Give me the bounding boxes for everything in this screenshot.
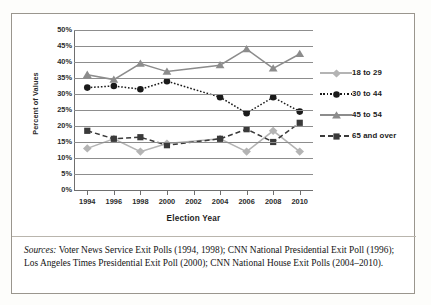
y-tick-50%: 50% [57,26,72,34]
data-point [83,144,92,152]
x-tick-1996: 1996 [99,197,129,206]
x-tick-2008: 2008 [258,197,288,206]
gridline [74,174,313,175]
data-point [332,69,341,77]
legend-marker-circle [331,89,342,100]
series-line [87,49,299,79]
legend-label: 65 and over [352,131,396,140]
legend-label: 30 to 44 [352,89,382,98]
chart-legend: 18 to 2930 to 4445 to 5465 and over [320,62,414,146]
x-tick [300,190,301,195]
y-tick-35%: 35% [57,74,72,82]
legend-item-30-to-44[interactable]: 30 to 44 [320,83,414,104]
line-chart: Percent of Values 0%5%10%15%20%25%30%35%… [12,14,416,228]
plot-area [74,30,313,190]
x-axis-title: Election Year [74,214,313,223]
y-tick-20%: 20% [57,122,72,130]
legend-key [320,130,352,142]
x-tick [194,190,195,195]
gridline [74,94,313,95]
gridline [74,110,313,111]
y-tick-25%: 25% [57,106,72,114]
x-tick-2006: 2006 [232,197,262,206]
x-tick-2004: 2004 [205,197,235,206]
x-tick [140,190,141,195]
x-tick-2010: 2010 [285,197,315,206]
data-point [84,128,90,134]
data-point [164,142,170,148]
legend-item-18-to-29[interactable]: 18 to 29 [320,62,414,83]
data-point [84,84,91,91]
y-axis-title: Percent of Values [31,59,40,149]
caption-divider [12,236,416,237]
data-point [136,59,145,66]
legend-label: 18 to 29 [352,68,382,77]
y-tick-40%: 40% [57,58,72,66]
gridline [74,126,313,127]
y-tick-15%: 15% [57,138,72,146]
x-tick [87,190,88,195]
sources-text: Voter News Service Exit Polls (1994, 199… [24,245,394,268]
legend-item-65-and-over[interactable]: 65 and over [320,125,414,146]
data-point [83,71,92,78]
y-tick-30%: 30% [57,90,72,98]
y-tick-0%: 0% [61,186,72,194]
x-tick [247,190,248,195]
gridline [74,158,313,159]
x-tick [220,190,221,195]
x-axis-tick-labels: 199419961998200020022004200620082010 [64,197,323,211]
gridline [74,62,313,63]
figure-page: Percent of Values 0%5%10%15%20%25%30%35%… [0,0,431,305]
sources-caption: Sources: Voter News Service Exit Polls (… [24,244,406,269]
figure-frame: Percent of Values 0%5%10%15%20%25%30%35%… [11,13,415,294]
data-point [111,136,117,142]
legend-label: 45 to 54 [352,110,382,119]
data-point [111,83,118,90]
x-tick [273,190,274,195]
x-tick-2000: 2000 [152,197,182,206]
x-tick-1998: 1998 [125,197,155,206]
data-point [333,133,339,139]
legend-item-45-to-54[interactable]: 45 to 54 [320,104,414,125]
data-point [137,134,143,140]
data-point [136,148,145,156]
legend-key [320,67,352,79]
sources-label: Sources: [24,245,56,255]
data-point [137,86,144,93]
y-tick-5%: 5% [61,170,72,178]
x-tick-2002: 2002 [179,197,209,206]
gridline [74,78,313,79]
gridline [74,30,313,31]
legend-key [320,109,352,121]
y-axis-tick-labels: 0%5%10%15%20%25%30%35%40%45%50% [45,30,72,190]
legend-marker-diamond [331,68,342,79]
data-point [332,111,341,118]
data-point [297,120,303,126]
legend-key [320,88,352,100]
y-tick-45%: 45% [57,42,72,50]
gridline [74,46,313,47]
x-tick [114,190,115,195]
x-tick-1994: 1994 [72,197,102,206]
gridline [74,142,313,143]
data-point [244,126,250,132]
series-line [87,81,299,113]
data-point [295,50,304,57]
data-point [333,91,340,98]
x-axis-ticks [74,190,313,196]
y-tick-10%: 10% [57,154,72,162]
legend-marker-square [331,131,342,142]
data-point [217,136,223,142]
legend-marker-triangle [331,110,342,121]
x-tick [167,190,168,195]
